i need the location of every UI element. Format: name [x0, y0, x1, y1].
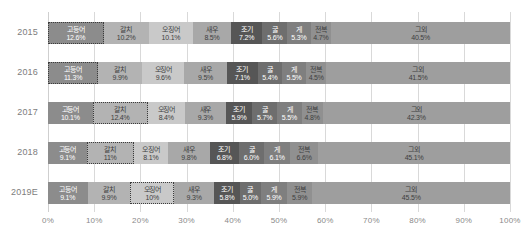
bar-segment: 오징어9.6%: [142, 62, 185, 84]
bar-segment-value: 6.0%: [239, 154, 265, 161]
bar-segment: 새우8.5%: [193, 22, 231, 44]
bar-segment: 전복6.6%: [290, 142, 318, 164]
bar-segment: 전복5.9%: [287, 182, 313, 204]
x-axis-tick-labels: 0%10%20%30%40%50%60%70%80%90%100%: [48, 216, 510, 232]
bar-segment-name: 조기: [214, 186, 239, 193]
x-axis-tick-label: 10%: [86, 216, 103, 225]
x-axis-tick-label: 0%: [42, 216, 54, 225]
bar-segment-value: 4.5%: [306, 74, 326, 81]
bar-segment-name: 그외: [331, 26, 510, 33]
bar-segment-name: 오징어: [148, 106, 185, 113]
bar-segment: 게5.3%: [287, 22, 310, 44]
bar-segment-value: 5.3%: [287, 34, 310, 41]
bar-segment: 새우9.3%: [174, 182, 214, 204]
bar-segment-value: 45.5%: [312, 194, 510, 201]
bar-segment: 고등어12.6%: [48, 22, 104, 44]
bar-segment-value: 7.2%: [231, 34, 263, 41]
bar-segment-value: 5.4%: [258, 74, 282, 81]
bar-segment: 그외42.3%: [323, 102, 510, 124]
bar-segment: 그외45.5%: [312, 182, 510, 204]
bar-segment-value: 9.8%: [168, 154, 210, 161]
bar-segment-name: 그외: [312, 186, 510, 193]
gridline: [510, 12, 511, 212]
bar-segment: 갈치12.4%: [93, 102, 148, 124]
bar-row: 고등어9.1%갈치9.9%오징어10%새우9.3%조기5.8%굴5.0%게5.9…: [48, 182, 510, 204]
bar-segment: 갈치9.9%: [98, 62, 142, 84]
bar-segment-name: 고등어: [48, 146, 87, 153]
bar-segment-name: 전복: [306, 66, 326, 73]
bar-row: 고등어10.1%갈치12.4%오징어8.4%새우9.3%조기5.9%굴5.7%게…: [48, 102, 510, 124]
bar-segment-name: 오징어: [149, 26, 194, 33]
bar-segment-value: 8.4%: [148, 114, 185, 121]
bar-segment-value: 9.5%: [184, 74, 226, 81]
stacked-bar-chart: 20152016201720182019E 고등어12.6%갈치10.2%오징어…: [0, 0, 525, 242]
bar-segment-value: 10.2%: [104, 34, 149, 41]
bar-segment-name: 굴: [240, 186, 262, 193]
bar-segment-name: 전복: [311, 26, 332, 33]
bar-segment-name: 굴: [252, 106, 277, 113]
bar-segment-value: 5.8%: [214, 194, 239, 201]
y-axis-category-label: 2016: [0, 67, 38, 77]
bar-segment: 고등어11.3%: [48, 62, 98, 84]
x-axis-tick-label: 50%: [271, 216, 288, 225]
y-axis-category-label: 2015: [0, 27, 38, 37]
bar-segment: 고등어9.1%: [48, 182, 88, 204]
bar-segment-value: 45.1%: [318, 154, 510, 161]
bar-segment-value: 9.9%: [98, 74, 142, 81]
y-axis-category-labels: 20152016201720182019E: [0, 12, 44, 212]
bar-segment: 새우9.8%: [168, 142, 210, 164]
bar-segment-value: 9.3%: [185, 114, 226, 121]
plot-area: 고등어12.6%갈치10.2%오징어10.1%새우8.5%조기7.2%굴5.6%…: [48, 12, 510, 212]
bar-segment: 새우9.3%: [185, 102, 226, 124]
bar-segment: 전복4.7%: [311, 22, 332, 44]
bar-segment-value: 8.1%: [134, 154, 168, 161]
y-axis-category-label: 2017: [0, 107, 38, 117]
bar-row: 고등어11.3%갈치9.9%오징어9.6%새우9.5%조기7.1%굴5.4%게5…: [48, 62, 510, 84]
bar-row: 고등어12.6%갈치10.2%오징어10.1%새우8.5%조기7.2%굴5.6%…: [48, 22, 510, 44]
bar-segment: 굴6.0%: [239, 142, 265, 164]
bar-segment-name: 새우: [184, 66, 226, 73]
bar-segment-name: 갈치: [98, 66, 142, 73]
bar-segment-name: 굴: [239, 146, 265, 153]
bar-segment-name: 고등어: [48, 186, 88, 193]
bar-segment: 조기5.8%: [214, 182, 239, 204]
bar-segment-name: 새우: [193, 26, 231, 33]
bar-segment-value: 8.5%: [193, 34, 231, 41]
bar-segment-value: 10.1%: [149, 34, 194, 41]
bar-segment-value: 12.4%: [94, 114, 147, 121]
bar-segment-value: 10.1%: [48, 114, 93, 121]
bar-segment-name: 그외: [318, 146, 510, 153]
x-axis-tick-label: 80%: [409, 216, 426, 225]
bar-segment-value: 6.6%: [290, 154, 318, 161]
bar-segment-value: 12.6%: [49, 34, 103, 41]
x-axis-tick-label: 90%: [455, 216, 472, 225]
bar-segment-value: 5.9%: [261, 194, 287, 201]
bar-segment-name: 새우: [174, 186, 214, 193]
bar-segment-name: 굴: [262, 26, 287, 33]
bar-segment-name: 오징어: [142, 66, 185, 73]
bar-segment-name: 굴: [258, 66, 282, 73]
bar-segment-value: 4.7%: [311, 34, 332, 41]
bar-segment-name: 게: [282, 66, 306, 73]
bar-segment-name: 게: [264, 146, 290, 153]
bar-segment-name: 조기: [227, 66, 258, 73]
bar-segment: 오징어8.4%: [148, 102, 185, 124]
bar-segment-value: 40.5%: [331, 34, 510, 41]
bar-segment: 고등어10.1%: [48, 102, 93, 124]
bar-segment-value: 7.1%: [227, 74, 258, 81]
bar-segment-name: 오징어: [134, 146, 168, 153]
bar-segment-name: 오징어: [131, 186, 173, 193]
bar-segment-name: 갈치: [104, 26, 149, 33]
x-axis-tick-label: 70%: [363, 216, 380, 225]
bar-segment-value: 5.5%: [277, 114, 301, 121]
bar-segment-name: 게: [277, 106, 301, 113]
bar-segment: 그외40.5%: [331, 22, 510, 44]
bar-segment-value: 9.3%: [174, 194, 214, 201]
bar-segment-name: 게: [287, 26, 310, 33]
bar-segment-value: 9.9%: [88, 194, 131, 201]
bar-segment-name: 그외: [326, 66, 510, 73]
bar-segment: 그외45.1%: [318, 142, 510, 164]
bar-segment: 그외41.5%: [326, 62, 510, 84]
bar-segment-value: 5.7%: [252, 114, 277, 121]
bar-segment-name: 조기: [231, 26, 263, 33]
